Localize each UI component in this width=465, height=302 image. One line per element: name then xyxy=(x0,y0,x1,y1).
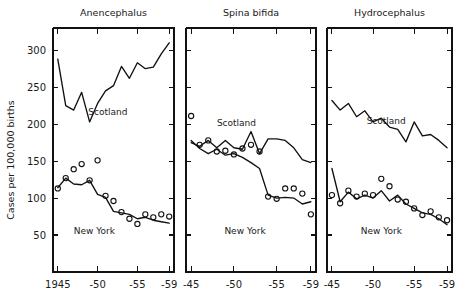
x-tick-label-1-2: -55 xyxy=(129,279,145,290)
x-tick-label-3-1: -50 xyxy=(365,279,381,290)
x-tick-label-2-2: -55 xyxy=(268,279,284,290)
series-annotation-scotland: Scotland xyxy=(88,107,127,117)
x-tick-label-1-1: -50 xyxy=(89,279,105,290)
x-tick-label-1-3: -59 xyxy=(161,279,177,290)
x-tick-label-2-3: -59 xyxy=(303,279,319,290)
x-tick-label-3-0: -45 xyxy=(324,279,340,290)
y-axis-title-label: Cases per 100,000 births xyxy=(5,100,16,220)
chart-background xyxy=(0,0,465,302)
y-tick-label-150: 150 xyxy=(27,156,46,167)
x-tick-label-1-0: 1945 xyxy=(45,279,70,290)
chart-figure: Cases per 100,000 births Anencephalus501… xyxy=(0,0,465,302)
y-axis-title: Cases per 100,000 births xyxy=(5,100,16,220)
y-tick-label-300: 300 xyxy=(27,45,46,56)
panel-title-2: Spina bifida xyxy=(223,7,279,18)
panel-title-1: Anencephalus xyxy=(80,7,147,18)
x-tick-label-2-1: -50 xyxy=(226,279,242,290)
panel-title-3: Hydrocephalus xyxy=(354,7,425,18)
series-annotation-new-york: New York xyxy=(74,226,116,236)
series-annotation-scotland: Scotland xyxy=(217,118,256,128)
series-annotation-new-york: New York xyxy=(224,226,266,236)
x-tick-label-3-2: -55 xyxy=(406,279,422,290)
x-tick-label-3-3: -59 xyxy=(439,279,455,290)
y-tick-label-50: 50 xyxy=(33,230,46,241)
series-annotation-new-york: New York xyxy=(361,226,403,236)
chart-canvas: Cases per 100,000 births Anencephalus501… xyxy=(0,0,465,302)
series-annotation-scotland: Scotland xyxy=(367,116,406,126)
y-tick-label-200: 200 xyxy=(27,119,46,130)
x-tick-label-2-0: -45 xyxy=(183,279,199,290)
y-tick-label-250: 250 xyxy=(27,82,46,93)
y-tick-label-100: 100 xyxy=(27,193,46,204)
